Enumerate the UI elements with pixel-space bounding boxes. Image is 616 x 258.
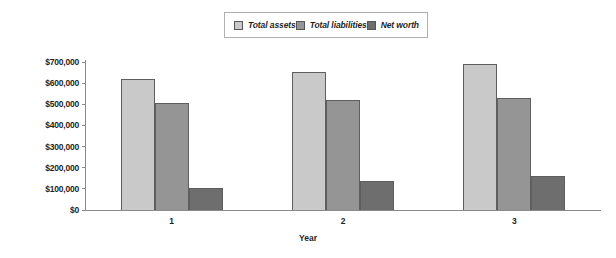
- plot-area: $700,000$600,000$500,000$400,000$300,000…: [86, 62, 600, 210]
- y-axis-tick: $500,000: [45, 99, 86, 109]
- y-axis-tick: $100,000: [45, 184, 86, 194]
- bar: [463, 64, 497, 210]
- bar: [497, 98, 531, 210]
- x-axis-tick-label: 3: [512, 216, 517, 226]
- y-axis-tick: $600,000: [45, 78, 86, 88]
- legend-entry-net-worth: Net worth: [367, 20, 419, 30]
- x-axis-tick-label: 2: [341, 216, 346, 226]
- bar: [292, 72, 326, 210]
- x-axis-title: Year: [0, 233, 616, 243]
- chart-legend: Total assets Total liabilities Net worth: [224, 12, 428, 38]
- legend-label: Total assets: [248, 20, 296, 30]
- y-axis-tick-label: $400,000: [45, 120, 79, 130]
- y-axis-tick: $400,000: [45, 120, 86, 130]
- y-axis-tick-mark: [82, 104, 86, 105]
- legend-entry-total-liabilities: Total liabilities: [296, 20, 367, 30]
- x-axis-tick-label: 1: [169, 216, 174, 226]
- y-axis-tick-label: $300,000: [45, 142, 79, 152]
- bar: [326, 100, 360, 210]
- bar-group: [463, 62, 565, 210]
- y-axis-tick: $700,000: [45, 57, 86, 67]
- y-axis-tick-label: $0: [70, 205, 79, 215]
- bar-group: [292, 62, 394, 210]
- y-axis-tick-label: $500,000: [45, 99, 79, 109]
- bar: [189, 188, 223, 210]
- legend-swatch-icon: [296, 21, 305, 30]
- legend-entry-total-assets: Total assets: [234, 20, 296, 30]
- y-axis-tick: $0: [70, 205, 86, 215]
- y-axis-tick-mark: [82, 188, 86, 189]
- bar: [531, 176, 565, 210]
- bar: [360, 181, 394, 210]
- bar: [121, 79, 155, 210]
- y-axis-tick: $200,000: [45, 163, 86, 173]
- y-axis-tick-label: $700,000: [45, 57, 79, 67]
- y-axis-tick-mark: [82, 210, 86, 211]
- bar-group: [121, 62, 223, 210]
- y-axis-tick-mark: [82, 125, 86, 126]
- y-axis-tick-mark: [82, 167, 86, 168]
- x-axis-line: [85, 210, 601, 211]
- bar-chart: Total assets Total liabilities Net worth…: [0, 0, 616, 258]
- legend-swatch-icon: [234, 21, 243, 30]
- y-axis-tick-mark: [82, 83, 86, 84]
- legend-label: Net worth: [381, 20, 419, 30]
- legend-swatch-icon: [367, 21, 376, 30]
- legend-label: Total liabilities: [310, 20, 367, 30]
- y-axis-tick-label: $200,000: [45, 163, 79, 173]
- y-axis-tick-mark: [82, 62, 86, 63]
- y-axis-tick: $300,000: [45, 142, 86, 152]
- y-axis-tick-mark: [82, 146, 86, 147]
- bar: [155, 103, 189, 210]
- y-axis-tick-label: $100,000: [45, 184, 79, 194]
- y-axis-tick-label: $600,000: [45, 78, 79, 88]
